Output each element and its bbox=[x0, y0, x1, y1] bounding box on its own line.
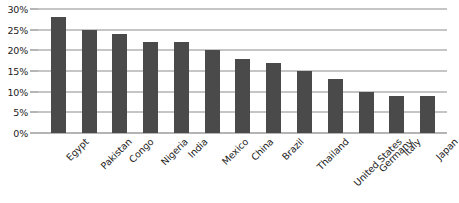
bar[interactable] bbox=[174, 42, 189, 133]
bar-slot bbox=[289, 9, 320, 133]
x-label-slot: Nigeria bbox=[135, 134, 166, 200]
bar-slot bbox=[166, 9, 197, 133]
y-axis-tick-label: 0% bbox=[13, 128, 28, 139]
bar-slot bbox=[228, 9, 259, 133]
x-label-slot: United States bbox=[320, 134, 351, 200]
y-axis-tick-label: 30% bbox=[7, 4, 28, 15]
bar-slot bbox=[381, 9, 412, 133]
x-axis-tick-label: Japan bbox=[433, 136, 459, 162]
bar[interactable] bbox=[359, 92, 374, 133]
bar-slot bbox=[197, 9, 228, 133]
bar-slot bbox=[412, 9, 443, 133]
x-label-slot: Germany bbox=[351, 134, 382, 200]
bar-slot bbox=[43, 9, 74, 133]
bar[interactable] bbox=[51, 17, 66, 133]
y-axis-tick-mark bbox=[30, 9, 38, 10]
x-label-slot: India bbox=[166, 134, 197, 200]
y-axis-tick-mark bbox=[30, 50, 38, 51]
plot-area bbox=[38, 9, 447, 133]
x-label-slot: Mexico bbox=[197, 134, 228, 200]
y-axis: 0%5%10%15%20%25%30% bbox=[0, 9, 38, 133]
y-axis-tick-label: 5% bbox=[13, 107, 28, 118]
bar[interactable] bbox=[266, 63, 281, 133]
bar-slot bbox=[135, 9, 166, 133]
x-label-slot: Pakistan bbox=[74, 134, 105, 200]
bar[interactable] bbox=[420, 96, 435, 133]
y-axis-tick-label: 25% bbox=[7, 24, 28, 35]
bar-slot bbox=[351, 9, 382, 133]
y-axis-tick-mark bbox=[30, 133, 38, 134]
bar-slot bbox=[74, 9, 105, 133]
bar-slot bbox=[105, 9, 136, 133]
bar[interactable] bbox=[297, 71, 312, 133]
y-axis-tick-mark bbox=[30, 91, 38, 92]
x-label-slot: Japan bbox=[412, 134, 443, 200]
x-label-slot: Congo bbox=[105, 134, 136, 200]
bar-slot bbox=[320, 9, 351, 133]
y-axis-tick-label: 10% bbox=[7, 86, 28, 97]
bar[interactable] bbox=[205, 50, 220, 133]
x-label-slot: Egypt bbox=[43, 134, 74, 200]
bar[interactable] bbox=[235, 59, 250, 133]
y-axis-tick-mark bbox=[30, 112, 38, 113]
y-axis-tick-mark bbox=[30, 29, 38, 30]
x-label-slot: Italy bbox=[381, 134, 412, 200]
x-label-slot: China bbox=[228, 134, 259, 200]
x-axis-labels: EgyptPakistanCongoNigeriaIndiaMexicoChin… bbox=[38, 134, 447, 200]
y-axis-tick-label: 20% bbox=[7, 45, 28, 56]
bar[interactable] bbox=[112, 34, 127, 133]
bar[interactable] bbox=[143, 42, 158, 133]
bar[interactable] bbox=[82, 30, 97, 133]
y-axis-tick-label: 15% bbox=[7, 66, 28, 77]
x-label-slot: Brazil bbox=[258, 134, 289, 200]
x-label-slot: Thailand bbox=[289, 134, 320, 200]
y-axis-tick-mark bbox=[30, 71, 38, 72]
bar[interactable] bbox=[389, 96, 404, 133]
bar[interactable] bbox=[328, 79, 343, 133]
bar-series bbox=[38, 9, 447, 133]
bar-slot bbox=[258, 9, 289, 133]
